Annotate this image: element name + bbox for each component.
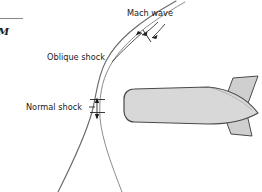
mach-number-symbol: M	[0, 26, 10, 37]
mach-wave-label: Mach wave	[127, 8, 173, 18]
shock-wave-diagram: Mach wave Oblique shock Normal shock M	[0, 0, 262, 192]
oblique-shock-label: Oblique shock	[47, 52, 105, 62]
normal-shock-label: Normal shock	[26, 102, 82, 112]
